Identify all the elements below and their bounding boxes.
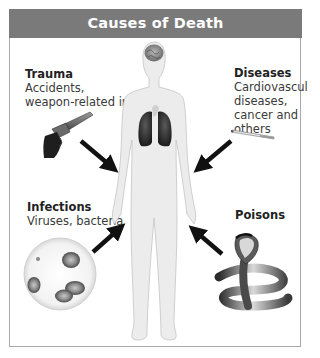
arrow-diseases — [199, 141, 231, 168]
revolver-icon — [40, 108, 100, 163]
petri-dish-bacteria-icon — [22, 236, 98, 312]
cigarette-icon — [230, 127, 280, 141]
cobra-snake-icon — [214, 232, 294, 317]
